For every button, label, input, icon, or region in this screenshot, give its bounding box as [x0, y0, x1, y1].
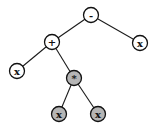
node-label: x	[137, 38, 144, 49]
node-label: *	[71, 73, 77, 84]
node-x-left: x	[10, 64, 25, 79]
node-x-bottom-left: x	[52, 107, 67, 122]
node-label: +	[48, 37, 56, 48]
node-label: x	[95, 109, 102, 120]
edge-minus-x-right	[91, 15, 140, 43]
node-times: *	[67, 71, 82, 86]
node-label: x	[14, 66, 21, 77]
node-x-bottom-right: x	[91, 107, 106, 122]
node-x-right: x	[133, 36, 148, 51]
tree-edges	[17, 15, 140, 114]
node-label: -	[89, 10, 93, 21]
node-plus: +	[45, 35, 60, 50]
node-label: x	[56, 109, 63, 120]
expression-tree-diagram: - + x x * x x	[0, 0, 155, 128]
node-minus: -	[84, 8, 99, 23]
